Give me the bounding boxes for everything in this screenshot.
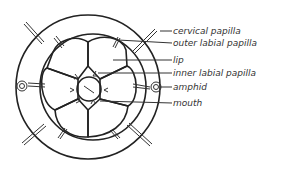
label-cervical-papilla: cervical papilla <box>173 26 241 36</box>
label-amphid: amphid <box>173 82 207 92</box>
label-lip: lip <box>173 55 184 65</box>
label-inner-labial-papilla: inner labial papilla <box>173 68 256 78</box>
label-outer-labial-papilla: outer labial papilla <box>173 38 257 48</box>
label-mouth: mouth <box>173 98 203 108</box>
leader-lines <box>98 31 172 103</box>
lips <box>42 37 137 137</box>
nematode-head-diagram: cervical papilla outer labial papilla li… <box>0 0 293 169</box>
